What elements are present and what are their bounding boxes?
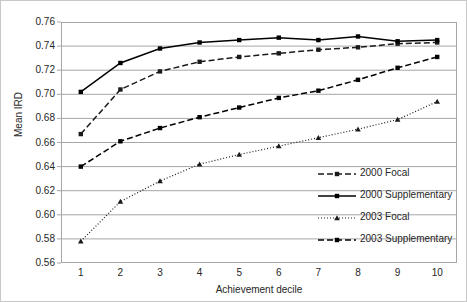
legend-item: 2003 Focal — [317, 205, 457, 227]
legend-swatch — [317, 188, 357, 200]
data-point-marker — [277, 96, 281, 100]
data-point-marker — [335, 238, 339, 242]
legend-item: 2000 Focal — [317, 161, 457, 183]
data-point-marker — [158, 126, 162, 130]
legend-label: 2000 Focal — [357, 167, 409, 178]
legend-label: 2003 Supplementary — [357, 233, 452, 244]
data-point-marker — [158, 69, 162, 73]
data-point-marker — [276, 143, 282, 148]
chart-figure: Mean IRD Achievement decile 0.760.740.72… — [0, 0, 467, 302]
data-point-marker — [334, 215, 340, 220]
data-point-marker — [197, 40, 201, 44]
data-point-marker — [355, 126, 361, 131]
data-point-marker — [435, 55, 439, 59]
data-point-marker — [356, 45, 360, 49]
legend-label: 2003 Focal — [357, 211, 409, 222]
data-point-marker — [277, 51, 281, 55]
data-point-marker — [118, 199, 124, 204]
data-point-marker — [277, 35, 281, 39]
data-point-marker — [434, 99, 440, 104]
data-point-marker — [237, 55, 241, 59]
data-point-marker — [237, 38, 241, 42]
data-point-marker — [335, 172, 339, 176]
data-point-marker — [316, 48, 320, 52]
chart-canvas — [1, 1, 467, 302]
legend-item: 2000 Supplementary — [317, 183, 457, 205]
data-point-marker — [197, 161, 203, 166]
series-2003-supplementary — [79, 55, 440, 169]
data-point-marker — [335, 194, 339, 198]
data-point-marker — [435, 38, 439, 42]
data-point-marker — [118, 87, 122, 91]
data-point-marker — [79, 164, 83, 168]
legend-swatch — [317, 210, 357, 222]
series-line — [81, 42, 437, 134]
data-point-marker — [158, 46, 162, 50]
data-point-marker — [118, 61, 122, 65]
chart-legend: 2000 Focal2000 Supplementary2003 Focal20… — [317, 161, 457, 249]
legend-swatch — [317, 232, 357, 244]
data-point-marker — [79, 90, 83, 94]
data-point-marker — [395, 66, 399, 70]
data-point-marker — [197, 115, 201, 119]
data-point-marker — [316, 88, 320, 92]
legend-label: 2000 Supplementary — [357, 189, 452, 200]
data-point-marker — [395, 39, 399, 43]
data-point-marker — [197, 60, 201, 64]
legend-item: 2003 Supplementary — [317, 227, 457, 249]
data-point-marker — [356, 78, 360, 82]
data-point-marker — [79, 132, 83, 136]
data-point-marker — [356, 34, 360, 38]
series-2000-focal — [79, 40, 440, 136]
legend-swatch — [317, 166, 357, 178]
data-point-marker — [316, 38, 320, 42]
data-point-marker — [237, 105, 241, 109]
data-point-marker — [118, 139, 122, 143]
series-2000-supplementary — [79, 34, 440, 94]
